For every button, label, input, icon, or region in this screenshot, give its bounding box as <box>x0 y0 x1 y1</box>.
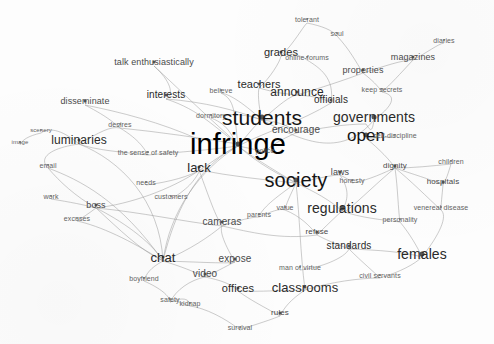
graph-node-label[interactable]: chat <box>151 251 176 264</box>
graph-node-label[interactable]: man of virtue <box>279 264 321 271</box>
graph-node-label[interactable]: expose <box>219 254 252 264</box>
graph-node-label[interactable]: lack <box>187 161 211 174</box>
graph-node-label[interactable]: email <box>39 162 56 169</box>
graph-node-label[interactable]: magazines <box>391 53 435 62</box>
graph-node-label[interactable]: cameras <box>202 217 241 227</box>
graph-node-label[interactable]: boss <box>86 201 105 210</box>
graph-node-label[interactable]: standards <box>327 241 372 251</box>
graph-node-label[interactable]: value <box>276 204 293 211</box>
graph-node-label[interactable]: honesty <box>339 177 364 184</box>
graph-node-label[interactable]: parents <box>247 211 271 218</box>
graph-node-label[interactable]: soul <box>330 30 343 37</box>
graph-node-label[interactable]: disseminate <box>60 97 109 106</box>
graph-node-label[interactable]: dormitory <box>196 112 226 119</box>
graph-node-label[interactable]: encourage <box>272 125 320 135</box>
node-layer: infringestudentssocietyopengovernmentsre… <box>0 0 494 344</box>
graph-node-label[interactable]: classrooms <box>272 281 339 294</box>
graph-node-label[interactable]: interests <box>147 90 186 100</box>
graph-node-label[interactable]: properties <box>342 66 383 75</box>
graph-node-label[interactable]: online-forums <box>285 54 329 61</box>
graph-node-label[interactable]: keep secrets <box>362 86 403 93</box>
graph-node-label[interactable]: police <box>256 147 275 154</box>
graph-node-label[interactable]: video <box>193 269 217 279</box>
graph-node-label[interactable]: offices <box>222 283 254 294</box>
graph-node-label[interactable]: image <box>12 139 29 145</box>
graph-node-label[interactable]: teachers <box>238 79 281 90</box>
graph-node-label[interactable]: rules <box>271 309 289 317</box>
graph-node-label[interactable]: governments <box>333 110 415 124</box>
graph-node-label[interactable]: kidnap <box>179 300 200 307</box>
graph-node-label[interactable]: believe <box>210 87 233 94</box>
graph-node-label[interactable]: civil servants <box>359 272 400 279</box>
graph-node-label[interactable]: boyfriend <box>129 275 159 282</box>
graph-node-label[interactable]: excuses <box>64 215 90 222</box>
graph-node-label[interactable]: safety <box>160 296 179 303</box>
graph-node-label[interactable]: the sense of safety <box>118 149 179 156</box>
graph-node-label[interactable]: females <box>397 247 447 261</box>
graph-node-label[interactable]: personality <box>383 216 418 223</box>
graph-node-label[interactable]: society <box>265 170 328 190</box>
graph-node-label[interactable]: luminaries <box>51 134 107 146</box>
graph-node-label[interactable]: work <box>43 193 58 200</box>
graph-node-label[interactable]: hospitals <box>427 178 459 186</box>
graph-node-label[interactable]: dignity <box>383 162 407 170</box>
graph-node-label[interactable]: desires <box>108 121 131 128</box>
graph-node-label[interactable]: venereal disease <box>414 204 469 211</box>
graph-node-label[interactable]: scenery <box>30 127 52 133</box>
graph-node-label[interactable]: children <box>438 158 463 165</box>
graph-node-label[interactable]: refuse <box>306 228 329 236</box>
graph-node-label[interactable]: officials <box>314 95 348 105</box>
graph-node-label[interactable]: talk enthusiastically <box>114 58 194 67</box>
graph-node-label[interactable]: tolerant <box>295 16 319 23</box>
graph-node-label[interactable]: needs <box>136 179 156 186</box>
graph-node-label[interactable]: laws <box>331 168 349 177</box>
graph-node-label[interactable]: self-discipline <box>373 132 417 139</box>
graph-node-label[interactable]: regulations <box>307 201 377 215</box>
word-network-figure: infringestudentssocietyopengovernmentsre… <box>0 0 494 344</box>
graph-node-label[interactable]: diaries <box>433 37 454 44</box>
graph-node-label[interactable]: customers <box>154 193 187 200</box>
graph-node-label[interactable]: survival <box>228 324 253 331</box>
